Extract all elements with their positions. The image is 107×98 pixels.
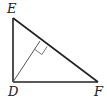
triangle-diagram: E D F: [0, 0, 107, 98]
right-angle-marker: [35, 46, 48, 54]
altitude-from-D: [13, 41, 40, 82]
side-EF-hypotenuse: [13, 18, 98, 82]
label-F: F: [93, 84, 104, 98]
label-E: E: [6, 1, 17, 16]
label-D: D: [7, 84, 19, 98]
